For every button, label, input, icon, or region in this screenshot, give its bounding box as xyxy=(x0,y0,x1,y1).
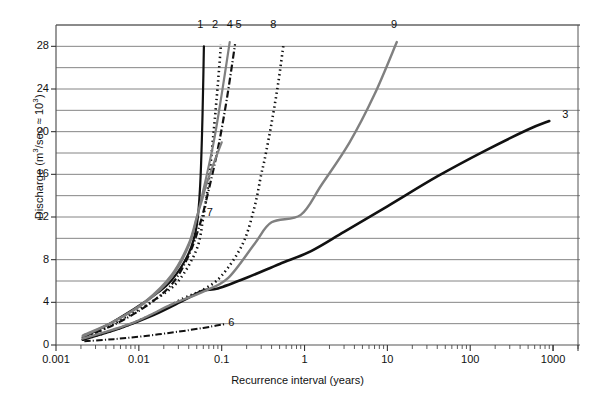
series-line-9 xyxy=(83,42,397,339)
y-tick-label-16: 16 xyxy=(15,167,49,179)
series-line-3 xyxy=(83,121,550,340)
curve-label-8: 8 xyxy=(270,18,276,30)
x-tick-label-0.01: 0.01 xyxy=(109,353,169,365)
y-tick-label-4: 4 xyxy=(15,295,49,307)
x-tick-label-0.1: 0.1 xyxy=(192,353,252,365)
x-tick-label-0.001: 0.001 xyxy=(26,353,86,365)
curve-label-3: 3 xyxy=(562,108,568,120)
curve-label-9: 9 xyxy=(391,18,397,30)
x-tick-label-10: 10 xyxy=(357,353,417,365)
curve-label-2: 2 xyxy=(212,18,218,30)
x-tick-label-1: 1 xyxy=(275,353,335,365)
curve-label-4: 4 xyxy=(227,18,233,30)
x-axis-label: Recurrence interval (years) xyxy=(0,374,595,386)
chart-canvas xyxy=(0,0,595,401)
series-line-5 xyxy=(83,44,235,337)
curve-label-6: 6 xyxy=(228,316,234,328)
curve-label-5: 5 xyxy=(236,18,242,30)
y-tick-label-24: 24 xyxy=(15,82,49,94)
chart-figure: Discharge (m3/sec ≈ 103) Recurrence inte… xyxy=(0,0,595,401)
series-line-1 xyxy=(83,46,204,337)
curve-label-7: 7 xyxy=(207,206,213,218)
y-tick-label-12: 12 xyxy=(15,210,49,222)
curve-label-1: 1 xyxy=(197,18,203,30)
y-tick-label-20: 20 xyxy=(15,125,49,137)
x-tick-label-1000: 1000 xyxy=(523,353,583,365)
series-line-8 xyxy=(83,43,284,340)
x-tick-label-100: 100 xyxy=(440,353,500,365)
y-tick-label-0: 0 xyxy=(15,338,49,350)
y-tick-label-8: 8 xyxy=(15,253,49,265)
y-tick-label-28: 28 xyxy=(15,39,49,51)
